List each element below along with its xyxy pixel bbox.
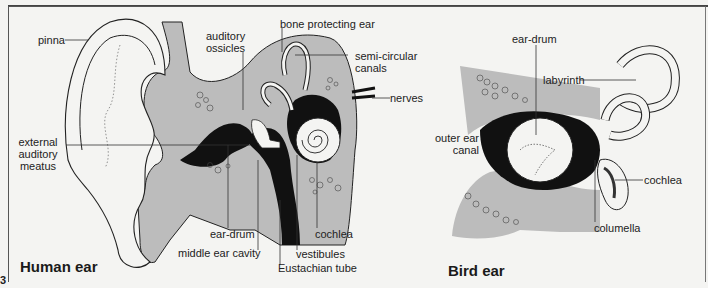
label-semi-circular-canals: semi-circular canals xyxy=(355,50,417,74)
label-middle-ear-cavity: middle ear cavity xyxy=(178,247,261,259)
label-vestibules: vestibules xyxy=(296,248,345,260)
figure-number: 3 xyxy=(0,274,6,286)
label-labyrinth: labyrinth xyxy=(543,74,585,86)
label-cochlea: cochlea xyxy=(315,228,353,240)
bird-ear-title: Bird ear xyxy=(448,262,505,279)
label-auditory-ossicles: auditory ossicles xyxy=(206,30,245,54)
label-eustachian-tube: Eustachian tube xyxy=(278,262,357,274)
label-outer-ear-canal: outer ear canal xyxy=(435,132,479,156)
label-external-auditory-meatus: external auditory meatus xyxy=(10,136,66,172)
label-bird-ear-drum: ear-drum xyxy=(512,33,557,45)
label-nerves: nerves xyxy=(390,92,423,104)
human-ear-title: Human ear xyxy=(20,258,98,275)
label-pinna: pinna xyxy=(38,34,65,46)
label-bone-protecting-ear: bone protecting ear xyxy=(280,18,375,30)
label-columella: columella xyxy=(594,222,640,234)
label-ear-drum: ear-drum xyxy=(210,228,255,240)
label-bird-cochlea: cochlea xyxy=(644,174,682,186)
ear-diagram-art xyxy=(0,0,708,288)
